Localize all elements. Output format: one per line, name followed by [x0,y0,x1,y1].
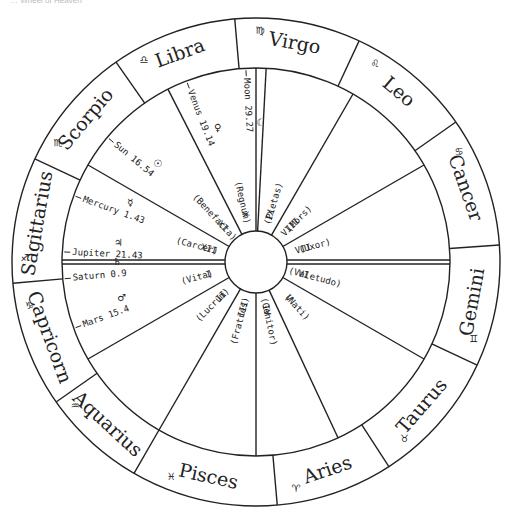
house-name: (Uxor) [298,237,332,255]
house-name: (Vita) [180,268,214,286]
house-name: (Benefacta) [191,192,239,242]
planet-sun: Sun 16.54 [112,140,156,179]
sign-divider [235,19,239,69]
planet-tick [65,278,71,279]
aries-glyph-icon: ♈ [292,483,301,494]
moon-glyph-icon: ☾ [256,117,265,128]
planet-jupiter: Jupiter 21.43 [72,247,143,261]
sign-divider [338,41,359,86]
cancer-glyph-icon: ♋ [455,146,464,157]
planet-tick [187,83,189,89]
planet-mars: Mars 15.4 [81,303,130,329]
planet-tick [109,139,114,143]
libra-glyph-icon: ♎ [140,54,149,65]
scorpio-glyph-icon: ♏ [54,137,63,148]
house-name: (Carcer) [175,235,219,256]
sign-divider [116,62,145,103]
house-cusp-line [272,94,354,235]
virgo-glyph-icon: ♍ [256,25,265,36]
house-name: (Nati) [283,292,312,323]
sign-divider [273,455,277,505]
gemini-glyph-icon: ♊ [469,333,478,344]
sign-label-leo: Leo [379,71,420,111]
aquarius-glyph-icon: ♒ [71,400,80,411]
planet-tick [76,196,82,198]
planet-mercury: Mercury 1.43 [82,194,147,226]
sign-label-pisces: Pisces [177,459,241,494]
sign-label-virgo: Virgo [266,27,322,58]
sign-divider [415,122,456,151]
pisces-glyph-icon: ♓ [167,471,176,482]
mars-glyph-icon: ♂ [117,292,126,303]
house-cusp-line [258,68,267,231]
house-name: (Lucrum) [194,286,232,324]
sign-divider [432,344,477,365]
sign-divider [450,245,500,248]
taurus-glyph-icon: ♉ [400,433,409,444]
house-name: (Regnum) [233,180,252,224]
sign-label-aries: Aries [299,451,354,488]
horoscope-wheel: Virgo♍Libra♎Scorpio♏Sagittarius♐Capricor… [0,0,512,514]
sign-divider [362,425,389,467]
sign-label-taurus: Taurus [391,374,451,438]
sign-label-aquarius: Aquarius [68,385,147,460]
capricorn-glyph-icon: ♑ [25,300,34,311]
saturn-glyph-icon: ♄ [113,256,122,267]
sagittarius-glyph-icon: ♐ [21,252,30,263]
center-hub [225,231,287,293]
house-name: (Mors) [284,203,314,233]
venus-glyph-icon: ♀ [214,122,221,133]
jupiter-glyph-icon: ♃ [114,237,123,248]
planet-moon: Moon 29.27 [242,78,255,133]
sign-divider [13,279,63,283]
planet-venus: Venus 19.14 [186,88,217,147]
planet-saturn: Saturn 0.9 [72,268,127,283]
wheel-structure [12,18,500,506]
mercury-glyph-icon: ☿ [127,197,133,208]
sign-label-scorpio: Scorpio [53,83,117,154]
sign-label-libra: Libra [152,33,208,71]
sun-glyph-icon: ☉ [153,158,162,169]
planet-tick [76,326,82,328]
sign-label-gemini: Gemini [454,266,488,338]
leo-glyph-icon: ♌ [370,58,379,69]
sign-label-cancer: Cancer [444,151,488,224]
